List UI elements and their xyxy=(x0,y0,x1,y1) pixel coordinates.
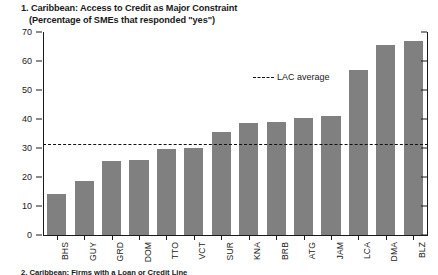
dashed-line-icon xyxy=(253,77,274,78)
y-axis-tick-label: 50 xyxy=(22,85,32,95)
bar-dma xyxy=(376,45,395,235)
bar-jam xyxy=(321,116,340,235)
x-axis-tick-mark xyxy=(57,236,58,240)
x-axis-label-grd: GRD xyxy=(115,242,125,261)
y-axis-tick-mark xyxy=(36,235,42,236)
x-axis-label-sur: SUR xyxy=(225,242,235,260)
x-axis-label-guy: GUY xyxy=(88,242,98,261)
x-axis-label-dma: DMA xyxy=(389,242,399,261)
bar-sur xyxy=(212,132,231,235)
bar-vct xyxy=(184,148,203,235)
bar-brb xyxy=(267,122,286,235)
bar-lca xyxy=(349,70,368,235)
x-axis-label-lca: LCA xyxy=(362,242,372,259)
x-axis-label-vct: VCT xyxy=(197,242,207,260)
x-axis-label-dom: DOM xyxy=(143,242,153,262)
x-axis-tick-mark xyxy=(331,236,332,240)
x-axis-label-bhs: BHS xyxy=(60,242,70,260)
y-axis-tick-mark-right xyxy=(421,119,427,120)
x-axis-label-jam: JAM xyxy=(335,242,345,260)
bar-dom xyxy=(129,160,148,235)
y-axis-tick-label: 30 xyxy=(22,143,32,153)
footer-note: 2. Caribbean: Firms with a Loan or Credi… xyxy=(21,268,187,275)
y-axis-tick-mark xyxy=(36,90,42,91)
y-axis-tick-mark xyxy=(36,61,42,62)
y-axis-tick-mark xyxy=(36,119,42,120)
bar-kna xyxy=(239,123,258,235)
lac-average-line xyxy=(43,144,428,145)
x-axis-tick-mark xyxy=(194,236,195,240)
bar-bhs xyxy=(47,194,66,235)
x-axis-tick-mark xyxy=(386,236,387,240)
x-axis-tick-mark xyxy=(249,236,250,240)
chart-figure: 1. Caribbean: Access to Credit as Major … xyxy=(0,0,438,275)
chart-legend: LAC average xyxy=(253,72,330,82)
y-axis-tick-label: 70 xyxy=(22,27,32,37)
x-axis-label-blz: BLZ xyxy=(417,242,427,258)
bar-guy xyxy=(75,181,94,235)
bar-tto xyxy=(157,149,176,235)
y-axis-tick-mark-right xyxy=(421,32,427,33)
x-axis-tick-mark xyxy=(84,236,85,240)
y-axis-tick-mark-right xyxy=(421,235,427,236)
y-axis-tick-mark xyxy=(36,177,42,178)
y-axis-tick-mark-right xyxy=(421,206,427,207)
y-axis-tick-label: 40 xyxy=(22,114,32,124)
x-axis-tick-mark xyxy=(112,236,113,240)
x-axis-tick-mark xyxy=(413,236,414,240)
y-axis-tick-label: 60 xyxy=(22,56,32,66)
bar-grd xyxy=(102,161,121,235)
y-axis-tick-mark xyxy=(36,148,42,149)
y-axis-tick-mark xyxy=(36,32,42,33)
x-axis-tick-mark xyxy=(166,236,167,240)
plot-area xyxy=(43,32,427,235)
page-title: 1. Caribbean: Access to Credit as Major … xyxy=(21,2,421,14)
y-axis-tick-mark-right xyxy=(421,177,427,178)
y-axis-tick-label: 0 xyxy=(27,230,32,240)
bar-atg xyxy=(294,118,313,235)
x-axis-tick-mark xyxy=(358,236,359,240)
x-axis-tick-mark xyxy=(221,236,222,240)
y-axis-tick-mark-right xyxy=(421,61,427,62)
y-axis-tick-label: 10 xyxy=(22,201,32,211)
x-axis-label-atg: ATG xyxy=(307,242,317,259)
chart-title-block: 1. Caribbean: Access to Credit as Major … xyxy=(21,2,421,26)
y-axis-tick-mark-right xyxy=(421,148,427,149)
right-axis-line xyxy=(427,32,428,236)
x-axis-line xyxy=(43,235,428,236)
x-axis-tick-mark xyxy=(139,236,140,240)
x-axis-label-tto: TTO xyxy=(170,242,180,259)
bar-blz xyxy=(404,41,423,235)
chart-subtitle: (Percentage of SMEs that responded "yes"… xyxy=(21,14,421,26)
y-axis-tick-mark xyxy=(36,206,42,207)
x-axis-label-kna: KNA xyxy=(252,242,262,260)
y-axis-ticks: 010203040506070 xyxy=(0,0,32,275)
y-axis-tick-label: 20 xyxy=(22,172,32,182)
legend-label-lac-average: LAC average xyxy=(277,72,330,82)
y-axis-tick-mark-right xyxy=(421,90,427,91)
x-axis-label-brb: BRB xyxy=(280,242,290,260)
x-axis-tick-mark xyxy=(304,236,305,240)
x-axis-tick-mark xyxy=(276,236,277,240)
